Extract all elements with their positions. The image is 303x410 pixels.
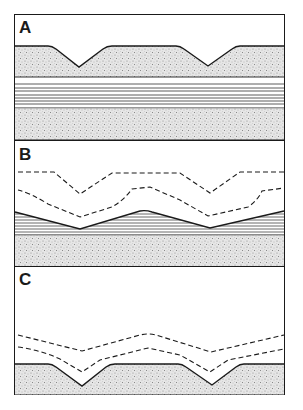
panel-a: A bbox=[15, 15, 285, 140]
panel-b-label: B bbox=[19, 145, 31, 164]
panel-c-sand bbox=[15, 364, 284, 395]
panel-a-label: A bbox=[19, 18, 31, 37]
panel-a-lower-sand bbox=[15, 109, 284, 140]
panel-a-upper-sand bbox=[15, 46, 284, 77]
panel-b: B bbox=[15, 141, 285, 267]
panel-c-label: C bbox=[19, 270, 31, 289]
panel-b-lower-sand bbox=[15, 236, 284, 267]
panel-c: C bbox=[15, 267, 285, 395]
geology-diagram: A B C bbox=[0, 0, 303, 410]
